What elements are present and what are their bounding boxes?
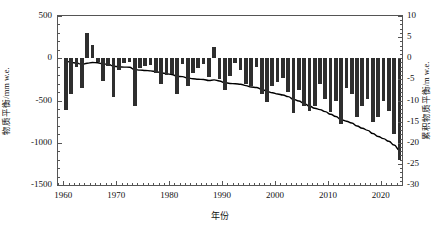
- x-tick-minor-1996: [254, 183, 255, 185]
- left-tick-minor--700: [58, 117, 60, 118]
- bar-2009: [323, 58, 327, 99]
- x-tick-major-2: [169, 181, 170, 185]
- right-tick-minor--6: [400, 84, 402, 85]
- x-tick-minor-1995: [249, 183, 250, 185]
- bar-1996: [255, 58, 259, 66]
- bar-2012: [339, 58, 343, 124]
- left-tick-minor-200: [58, 41, 60, 42]
- right-tick-minor--29: [400, 181, 402, 182]
- right-tick-minor--14: [400, 117, 402, 118]
- x-tick-minor-1992: [233, 183, 234, 185]
- x-tick-label-5: 2010: [312, 190, 344, 200]
- bar-1973: [133, 58, 137, 105]
- bar-1988: [212, 47, 216, 58]
- x-tick-minor-1999: [270, 183, 271, 185]
- bar-1998: [265, 58, 269, 102]
- bar-1983: [186, 58, 190, 86]
- right-tick-major-3: [398, 79, 402, 80]
- cumulative-mass-balance-line: [58, 16, 402, 185]
- right-tick-major-7: [398, 164, 402, 165]
- x-tick-minor-2018: [370, 183, 371, 185]
- bar-2004: [297, 58, 301, 89]
- x-tick-label-2: 1980: [153, 190, 185, 200]
- left-tick-major-4: [58, 185, 62, 186]
- x-tick-minor-1974: [137, 183, 138, 185]
- x-tick-minor-2006: [307, 183, 308, 185]
- bar-1967: [101, 58, 105, 81]
- right-tick-major-5: [398, 122, 402, 123]
- x-tick-major-0: [63, 181, 64, 185]
- right-tick-minor--3: [400, 71, 402, 72]
- x-tick-minor-1977: [153, 183, 154, 185]
- left-tick-minor-400: [58, 24, 60, 25]
- x-tick-minor-1989: [217, 183, 218, 185]
- right-tick-label-6: -20: [407, 137, 431, 147]
- x-tick-major-3: [222, 181, 223, 185]
- right-tick-label-8: -30: [407, 179, 431, 189]
- right-tick-major-2: [398, 58, 402, 59]
- x-tick-minor-2001: [280, 183, 281, 185]
- x-tick-minor-2012: [338, 183, 339, 185]
- right-tick-minor--28: [400, 177, 402, 178]
- x-tick-minor-2017: [365, 183, 366, 185]
- bar-2011: [334, 58, 338, 100]
- x-tick-major-6: [381, 181, 382, 185]
- left-tick-minor-300: [58, 33, 60, 34]
- bar-1993: [239, 58, 243, 70]
- bar-1991: [228, 58, 232, 76]
- right-tick-minor--22: [400, 151, 402, 152]
- bar-1984: [191, 58, 195, 73]
- bar-1987: [207, 58, 211, 77]
- bar-1971: [122, 58, 126, 63]
- x-tick-minor-1972: [127, 183, 128, 185]
- bar-2015: [355, 58, 359, 117]
- x-tick-minor-2023: [397, 183, 398, 185]
- x-tick-minor-2007: [312, 183, 313, 185]
- right-tick-minor-2: [400, 50, 402, 51]
- right-tick-minor--19: [400, 139, 402, 140]
- x-tick-minor-1961: [69, 183, 70, 185]
- x-tick-minor-2024: [402, 183, 403, 185]
- bar-1989: [218, 58, 222, 79]
- bar-2000: [276, 58, 280, 82]
- x-tick-label-4: 2000: [259, 190, 291, 200]
- right-tick-minor--8: [400, 92, 402, 93]
- right-tick-minor-6: [400, 33, 402, 34]
- right-tick-minor--1: [400, 62, 402, 63]
- bar-2017: [366, 58, 370, 99]
- x-tick-minor-1981: [174, 183, 175, 185]
- left-tick-minor--400: [58, 92, 60, 93]
- right-tick-minor-9: [400, 20, 402, 21]
- x-tick-minor-1968: [106, 183, 107, 185]
- right-tick-minor-3: [400, 46, 402, 47]
- x-tick-minor-1988: [211, 183, 212, 185]
- x-tick-minor-1991: [227, 183, 228, 185]
- right-tick-minor--21: [400, 147, 402, 148]
- right-tick-minor--11: [400, 105, 402, 106]
- bar-1966: [96, 58, 100, 62]
- x-tick-minor-1985: [196, 183, 197, 185]
- x-tick-minor-2019: [376, 183, 377, 185]
- x-tick-minor-1963: [79, 183, 80, 185]
- x-tick-major-1: [116, 181, 117, 185]
- right-tick-minor--12: [400, 109, 402, 110]
- x-tick-minor-2009: [323, 183, 324, 185]
- right-tick-minor-4: [400, 41, 402, 42]
- bar-2021: [387, 58, 391, 110]
- bar-1964: [85, 33, 89, 58]
- bar-2016: [360, 58, 364, 105]
- left-tick-minor--600: [58, 109, 60, 110]
- right-tick-minor--23: [400, 155, 402, 156]
- plot-inner: [58, 16, 402, 185]
- bar-2006: [308, 58, 312, 110]
- left-tick-minor--1400: [58, 177, 60, 178]
- bar-2003: [292, 58, 296, 113]
- left-tick-minor--800: [58, 126, 60, 127]
- right-tick-label-7: -25: [407, 158, 431, 168]
- right-tick-minor--16: [400, 126, 402, 127]
- bar-1960: [64, 58, 68, 110]
- bar-2002: [286, 58, 290, 92]
- x-tick-label-6: 2020: [365, 190, 397, 200]
- bar-2013: [345, 58, 349, 88]
- left-tick-minor-100: [58, 50, 60, 51]
